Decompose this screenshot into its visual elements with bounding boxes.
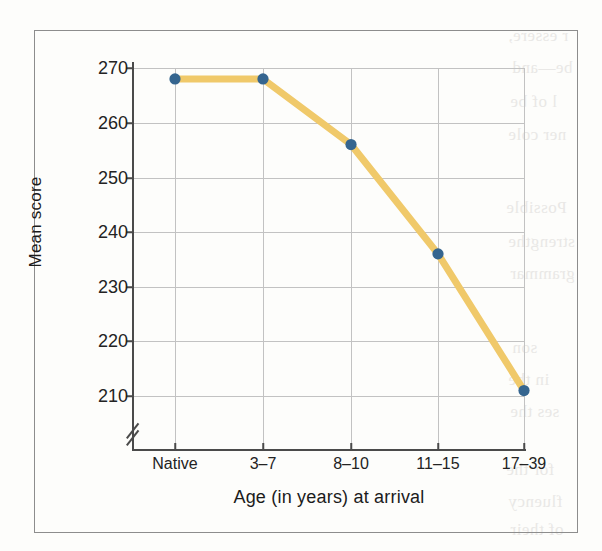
series-line-mean-score	[175, 79, 524, 391]
chart: 270 260 250 240 230 220 210 Native 3–7 8…	[0, 0, 602, 551]
data-point-8-10	[345, 139, 356, 150]
series-layer	[0, 0, 602, 551]
data-point-11-15	[432, 248, 443, 259]
series-markers-mean-score	[169, 73, 529, 396]
data-point-Native	[169, 73, 180, 84]
data-point-17-39	[518, 385, 529, 396]
figure-page: r essere, be—and l of be ner cole Possib…	[0, 0, 602, 551]
data-point-3-7	[257, 73, 268, 84]
